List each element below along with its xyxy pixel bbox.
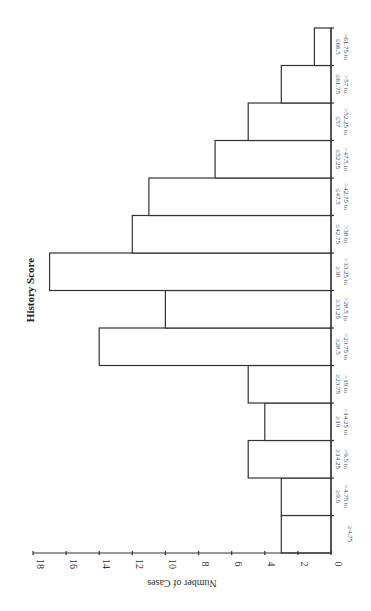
histogram-bar	[149, 178, 331, 216]
value-tick-label: 2	[299, 562, 310, 567]
category-label: >33.25 to≥38	[334, 258, 350, 285]
category-label: >9.5 to≥14.25	[334, 449, 350, 469]
histogram-bar	[281, 66, 331, 104]
category-label: >23.75 to≥28.5	[334, 333, 350, 360]
category-labels: ≥4.75>4.75 to≥9.5>9.5 to≥14.25>14.25 to≥…	[334, 33, 354, 542]
histogram-bar	[281, 516, 331, 554]
category-label: >52.25 to≤57	[334, 108, 350, 135]
histogram-bar	[248, 441, 331, 479]
category-label: ≥4.75	[346, 526, 354, 543]
histogram-bar	[50, 253, 331, 291]
histogram-bar	[248, 366, 331, 404]
bars-group	[50, 28, 331, 553]
value-tick-label: 0	[333, 562, 344, 567]
value-axis-tick-labels: 024681012141618	[35, 559, 344, 569]
value-tick-label: 8	[200, 562, 211, 567]
histogram-bar	[132, 216, 331, 254]
category-label: >47.5 to≤52.25	[334, 148, 350, 172]
value-tick-label: 16	[68, 559, 79, 569]
category-label: >38 to≤42.75	[334, 225, 350, 245]
histogram-bar	[99, 328, 331, 366]
value-tick-label: 14	[101, 559, 112, 569]
histogram-bar	[281, 478, 331, 516]
category-label: >14.25 to≥19	[334, 408, 350, 435]
category-label: >19 to≥23.75	[334, 375, 350, 395]
chart-title: History Score	[24, 258, 36, 322]
value-tick-label: 6	[233, 562, 244, 567]
histogram-chart: ≥4.75>4.75 to≥9.5>9.5 to≥14.25>14.25 to≥…	[0, 0, 371, 611]
histogram-bar	[215, 141, 331, 179]
value-tick-label: 18	[35, 559, 46, 569]
value-tick-label: 10	[167, 559, 178, 569]
category-label: >61.75 to≤66.5	[334, 33, 350, 60]
category-label: >28.5 to≥33.25	[334, 298, 350, 322]
histogram-bar	[165, 291, 331, 329]
histogram-bar	[265, 403, 331, 441]
value-tick-label: 4	[266, 562, 277, 567]
value-tick-label: 12	[134, 559, 145, 569]
category-label: >57 to≤61.75	[334, 75, 350, 95]
value-axis-title: Number of Cases	[147, 578, 217, 589]
histogram-bar	[314, 28, 331, 66]
category-label: >42.75 to≤47.5	[334, 183, 350, 210]
histogram-bar	[248, 103, 331, 141]
category-label: >4.75 to≥9.5	[334, 485, 350, 509]
